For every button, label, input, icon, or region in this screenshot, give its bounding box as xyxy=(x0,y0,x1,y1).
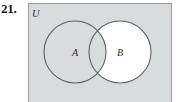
set-a-label: A xyxy=(71,47,79,58)
venn-diagram-canvas: U A B xyxy=(0,0,178,102)
venn-diagram-figure: 21. U A B xyxy=(0,0,178,102)
region-b-minus-a xyxy=(28,3,172,102)
set-b-label: B xyxy=(117,47,123,58)
